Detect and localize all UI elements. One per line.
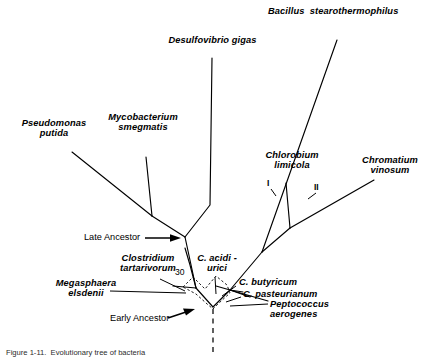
branch-mycobacterium-smegmatis [146,157,152,216]
leader-c-pasteurianum [226,297,241,302]
branch-chromatium-vinosum [290,180,374,228]
taxon-label-megasphaera-elsdenii: Megasphaera elsdenii [38,278,134,299]
taxon-label-pseudomonas-putida: Pseudomonas putida [8,118,100,139]
late-ancestor-arrow [145,234,181,242]
tree-diagram [0,0,434,360]
taxon-label-peptococcus-aerogenes: Peptococcus aerogenes [270,299,366,320]
branch-chlorobium-limicola [286,183,290,228]
branch-late-ancestor-to-node-c [152,216,185,237]
leader-c-acidi-urici [215,277,216,294]
branch-desulfovibrio-gigas [185,58,212,237]
figure-caption: Figure 1-11. Evolutionary tree of bacter… [6,349,145,358]
leader-branch-I [271,189,276,196]
late-ancestor-label: Late Ancestor [84,232,140,242]
leader-clostridium-tartarivorum [160,279,185,291]
branch-bacillus-stearothermophilus [262,40,337,252]
taxon-label-chromatium-vinosum: Chromatium vinosum [350,155,430,176]
taxon-label-c-acidi-urici: C. acidi - urici [186,253,248,274]
early-ancestor-label: Early Ancestor [110,313,169,323]
taxon-label-c-butyricum: C. butyricum [239,277,331,287]
leader-branch-II [308,193,316,199]
distance-label-30: 30 [175,268,185,278]
early-ancestor-arrow [168,309,195,319]
taxon-label-c-pasteurianum: C. pasteurianum [243,289,349,299]
phylogenetic-tree-figure: Pseudomonas putida Mycobacterium smegmat… [0,0,434,360]
branch-root-to-left-clade [196,288,213,307]
early-ancestor-uncertainty-outline [183,276,230,309]
taxon-label-desulfovibrio-gigas: Desulfovibrio gigas [140,35,285,45]
branch-label-II: II [314,183,319,193]
taxon-label-bacillus-stearothermophilus: Bacillus stearothermophilus [268,6,434,16]
branch-label-I: I [267,179,269,189]
branch-pseudomonas-putida [72,152,152,216]
leader-peptococcus-aerogenes [230,304,268,306]
taxon-label-chlorobium-limicola: Chlorobium limicola [250,150,334,171]
taxon-label-mycobacterium-smegmatis: Mycobacterium smegmatis [88,112,198,133]
